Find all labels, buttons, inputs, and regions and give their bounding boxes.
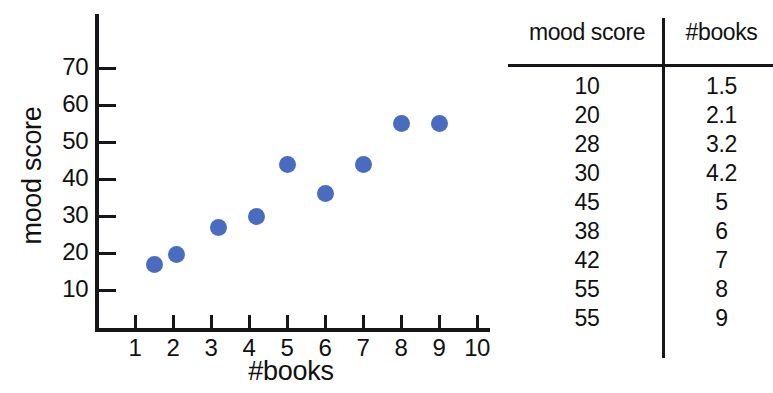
x-axis-tick-label: 8 <box>381 336 421 360</box>
cell-mood-score: 10 <box>518 72 656 101</box>
x-axis-tick-label: 6 <box>305 336 345 360</box>
data-point <box>210 219 227 236</box>
y-axis-tick <box>99 178 116 181</box>
cell-books: 7 <box>674 246 769 275</box>
table-header-rule <box>508 64 773 67</box>
x-axis-tick-label: 4 <box>229 336 269 360</box>
x-axis-tick-label: 5 <box>267 336 307 360</box>
cell-mood-score: 20 <box>518 101 656 130</box>
y-axis-tick <box>99 104 116 107</box>
column-header-books: #books <box>674 17 769 47</box>
table-row: 427 <box>508 246 773 275</box>
cell-mood-score: 30 <box>518 159 656 188</box>
y-axis-tick <box>99 67 116 70</box>
x-axis-tick-label: 2 <box>153 336 193 360</box>
table-row: 202.1 <box>508 101 773 130</box>
x-axis-tick-label: 7 <box>343 336 383 360</box>
y-axis-tick <box>99 289 116 292</box>
cell-books: 6 <box>674 217 769 246</box>
y-axis-line <box>95 14 99 332</box>
cell-mood-score: 55 <box>518 304 656 333</box>
y-axis-tick-label: 10 <box>36 277 88 301</box>
cell-books: 5 <box>674 188 769 217</box>
y-axis-tick-label: 20 <box>36 240 88 264</box>
table-body: 101.5202.1283.2304.2455386427558559 <box>508 72 773 333</box>
column-header-mood-score: mood score <box>518 17 656 47</box>
y-axis-tick-label: 30 <box>36 203 88 227</box>
x-axis-tick-label: 1 <box>115 336 155 360</box>
cell-books: 4.2 <box>674 159 769 188</box>
table-row: 283.2 <box>508 130 773 159</box>
data-point <box>431 115 448 132</box>
table-row: 101.5 <box>508 72 773 101</box>
table-row: 558 <box>508 275 773 304</box>
y-axis-tick-label: 50 <box>36 129 88 153</box>
cell-mood-score: 28 <box>518 130 656 159</box>
data-point <box>168 246 185 263</box>
x-axis-tick-label: 3 <box>191 336 231 360</box>
cell-mood-score: 38 <box>518 217 656 246</box>
y-axis-tick <box>99 141 116 144</box>
x-axis-tick-label: 10 <box>457 336 497 360</box>
x-axis-tick-label: 9 <box>419 336 459 360</box>
x-axis-tick <box>134 315 137 328</box>
x-axis-line <box>95 328 490 332</box>
cell-mood-score: 42 <box>518 246 656 275</box>
data-point <box>279 156 296 173</box>
x-axis-tick <box>476 315 479 328</box>
x-axis-tick <box>286 315 289 328</box>
cell-books: 3.2 <box>674 130 769 159</box>
x-axis-tick <box>248 315 251 328</box>
table-row: 304.2 <box>508 159 773 188</box>
data-point <box>146 256 163 273</box>
cell-books: 9 <box>674 304 769 333</box>
y-axis-tick-label: 60 <box>36 92 88 116</box>
data-point <box>248 208 265 225</box>
y-axis-tick-label: 70 <box>36 55 88 79</box>
table-row: 455 <box>508 188 773 217</box>
x-axis-tick <box>362 315 365 328</box>
cell-books: 1.5 <box>674 72 769 101</box>
cell-mood-score: 45 <box>518 188 656 217</box>
y-axis-tick <box>99 215 116 218</box>
x-axis-tick <box>438 315 441 328</box>
cell-books: 2.1 <box>674 101 769 130</box>
scatter-plot: mood score #books 10203040506070 1234567… <box>0 0 500 393</box>
cell-books: 8 <box>674 275 769 304</box>
y-axis-tick <box>99 252 116 255</box>
x-axis-tick <box>210 315 213 328</box>
table-row: 559 <box>508 304 773 333</box>
cell-mood-score: 55 <box>518 275 656 304</box>
data-table: mood score #books 101.5202.1283.2304.245… <box>508 0 773 393</box>
table-header-row: mood score #books <box>508 17 773 47</box>
x-axis-tick <box>172 315 175 328</box>
y-axis-tick-label: 40 <box>36 166 88 190</box>
data-point <box>317 185 334 202</box>
x-axis-tick <box>400 315 403 328</box>
x-axis-tick <box>324 315 327 328</box>
data-point <box>355 156 372 173</box>
table-row: 386 <box>508 217 773 246</box>
data-point <box>393 115 410 132</box>
